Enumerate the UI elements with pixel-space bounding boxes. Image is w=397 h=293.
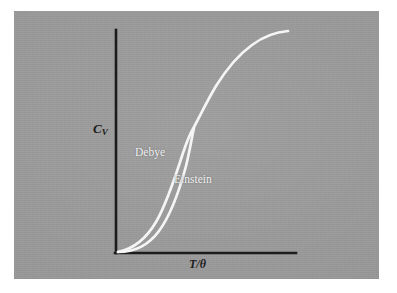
plot-panel-background [14,11,379,279]
y-axis-label-subscript: V [102,127,108,137]
y-axis-label-main: C [93,121,102,136]
figure-root: CV T/θ Debye Einstein [0,0,397,293]
x-axis-label: T/θ [189,258,206,270]
y-axis-label: CV [93,122,108,137]
debye-curve-label: Debye [135,147,165,159]
einstein-curve-label: Einstein [174,174,212,186]
